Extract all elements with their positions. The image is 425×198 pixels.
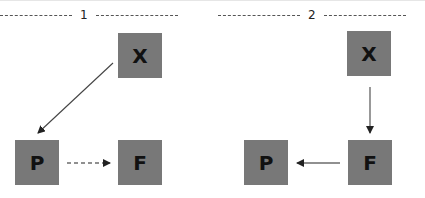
panel-1-node-x: X — [118, 33, 162, 78]
node-label: X — [132, 44, 147, 68]
node-label: X — [361, 42, 376, 66]
node-label: P — [30, 151, 45, 175]
node-label: P — [259, 151, 274, 175]
node-label: F — [133, 151, 147, 175]
panel-2-node-x: X — [347, 31, 391, 76]
node-label: F — [363, 151, 377, 175]
panel-1-node-f: F — [118, 140, 162, 185]
panel-2-node-f: F — [348, 140, 392, 185]
edge-x-to-p — [38, 63, 113, 133]
panel-1-node-p: P — [15, 140, 59, 185]
panel-2-node-p: P — [244, 140, 288, 185]
